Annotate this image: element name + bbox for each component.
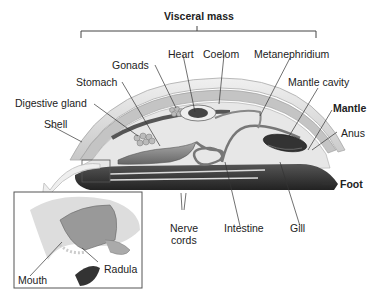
label-shell: Shell bbox=[44, 118, 67, 130]
label-mantle-cavity: Mantle cavity bbox=[288, 76, 349, 88]
visceral-mass-bracket bbox=[81, 26, 316, 38]
label-mantle: Mantle bbox=[333, 102, 366, 114]
label-heart: Heart bbox=[168, 48, 194, 60]
label-metanephridium: Metanephridium bbox=[254, 48, 329, 60]
label-gill: Gill bbox=[290, 222, 305, 234]
label-anus: Anus bbox=[341, 127, 365, 139]
diagram-illustration bbox=[0, 0, 380, 301]
label-mouth: Mouth bbox=[18, 274, 47, 286]
label-intestine: Intestine bbox=[224, 222, 264, 234]
label-digestive-gland: Digestive gland bbox=[15, 97, 87, 109]
label-stomach: Stomach bbox=[76, 76, 117, 88]
label-gonads: Gonads bbox=[112, 59, 149, 71]
foot bbox=[75, 164, 338, 190]
label-radula: Radula bbox=[104, 263, 137, 275]
label-nerve-cords-line1: Nerve bbox=[170, 222, 198, 234]
label-coelom: Coelom bbox=[203, 48, 239, 60]
label-foot: Foot bbox=[340, 178, 363, 190]
heart bbox=[188, 108, 208, 118]
label-visceral-mass: Visceral mass bbox=[164, 10, 234, 22]
label-nerve-cords-line2: cords bbox=[171, 234, 197, 246]
mollusc-body-plan-diagram: Visceral mass Heart Coelom Metanephridiu… bbox=[0, 0, 380, 301]
